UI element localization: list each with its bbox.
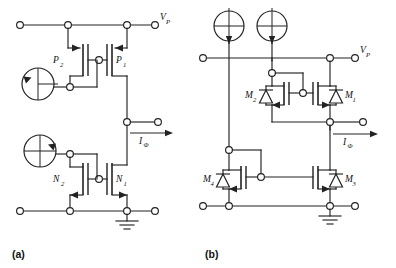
panel-a-node-p2-source[interactable] xyxy=(65,22,72,29)
panel-b-vp-label-group: V P xyxy=(360,45,370,58)
panel-a-transistor-n1: N 1 xyxy=(101,163,127,211)
panel-a-label-vp-sub: P xyxy=(165,18,170,25)
panel-a-vp-label-group: V P xyxy=(160,12,170,25)
panel-a-label-n2-sub: 2 xyxy=(61,180,65,187)
panel-a-transistor-p2: P 2 xyxy=(52,28,97,87)
panel-a-label-p1: P xyxy=(115,55,122,65)
panel-b-transistor-m4: M 4 xyxy=(202,147,259,206)
panel-a-label-p2: P xyxy=(52,55,59,65)
panel-b-output-branch: I Φ xyxy=(272,119,378,170)
panel-a-terminal-left-top[interactable] xyxy=(17,22,24,29)
panel-b-terminal-right-bottom[interactable] xyxy=(352,203,359,210)
figure-root: P 2 P xyxy=(0,0,396,268)
panel-b-node-lower-gate[interactable] xyxy=(258,174,265,181)
panel-b-node-m3-source[interactable] xyxy=(327,203,334,210)
panel-b-caption: (b) xyxy=(205,248,218,260)
panel-b-ground-rail xyxy=(200,203,359,224)
panel-a-label-p2-sub: 2 xyxy=(60,61,64,68)
panel-a-terminal-output[interactable] xyxy=(155,119,162,126)
panel-b-label-m3-sub: 3 xyxy=(352,180,357,187)
panel-b-transistor-m3: M 3 xyxy=(263,166,357,206)
panel-b-terminal-left-bottom[interactable] xyxy=(200,203,207,210)
panel-b-current-source-left xyxy=(214,8,244,150)
panel-a-label-n1: N xyxy=(115,174,123,184)
panel-b-node-m4-drain[interactable] xyxy=(226,147,233,154)
panel-b-terminal-left-top[interactable] xyxy=(200,55,207,62)
panel-b-current-source-right xyxy=(257,8,287,61)
panel-b-supply-rail: V P xyxy=(200,45,370,61)
panel-a-terminal-left-bottom[interactable] xyxy=(17,208,24,215)
panel-a: P 2 P xyxy=(12,12,173,260)
panel-b-label-iphi-sub: Φ xyxy=(348,142,353,149)
panel-b-label-iphi: I xyxy=(342,137,347,147)
panel-a-label-p1-sub: 1 xyxy=(123,61,126,68)
circuit-figure-svg: P 2 P xyxy=(0,0,396,268)
panel-b-node-upper-gate[interactable] xyxy=(300,90,307,97)
panel-b-terminal-output[interactable] xyxy=(360,119,367,126)
panel-a-caption: (a) xyxy=(12,248,25,260)
panel-a-supply-rail xyxy=(17,22,159,29)
panel-a-label-iphi: I xyxy=(138,136,143,146)
panel-a-output-branch: I Φ xyxy=(124,119,173,165)
panel-a-node-n2-source[interactable] xyxy=(67,208,74,215)
panel-b: V P xyxy=(200,8,378,260)
panel-a-transistor-n2: N 2 xyxy=(52,157,97,211)
panel-b-transistor-m2: M 2 xyxy=(244,76,301,122)
panel-a-terminal-vp[interactable] xyxy=(152,22,159,29)
panel-a-node-n1-source[interactable] xyxy=(124,208,131,215)
panel-b-node-m2-source[interactable] xyxy=(269,70,276,77)
panel-b-label-m2-sub: 2 xyxy=(253,96,257,103)
panel-b-label-vp-sub: P xyxy=(365,51,370,58)
panel-b-node-m4-source[interactable] xyxy=(226,203,233,210)
panel-a-node-output[interactable] xyxy=(124,119,131,126)
panel-a-label-n2: N xyxy=(52,174,60,184)
panel-a-ground-rail xyxy=(17,208,159,229)
panel-a-transistor-p1: P 1 xyxy=(101,28,127,122)
panel-b-label-m4-sub: 4 xyxy=(211,180,215,187)
panel-b-label-m1-sub: 1 xyxy=(353,96,356,103)
panel-a-label-n1-sub: 1 xyxy=(124,180,127,187)
panel-a-terminal-right-bottom[interactable] xyxy=(152,208,159,215)
panel-a-current-source-lower xyxy=(24,135,73,167)
panel-b-node-m1-source[interactable] xyxy=(327,55,334,62)
panel-a-node-p1-source[interactable] xyxy=(124,22,131,29)
panel-a-node-n2-drain[interactable] xyxy=(67,151,74,158)
panel-a-node-p2-drain[interactable] xyxy=(67,84,74,91)
panel-a-label-iphi-sub: Φ xyxy=(144,141,149,148)
panel-b-terminal-vp[interactable] xyxy=(352,55,359,62)
panel-b-node-output[interactable] xyxy=(327,119,334,126)
